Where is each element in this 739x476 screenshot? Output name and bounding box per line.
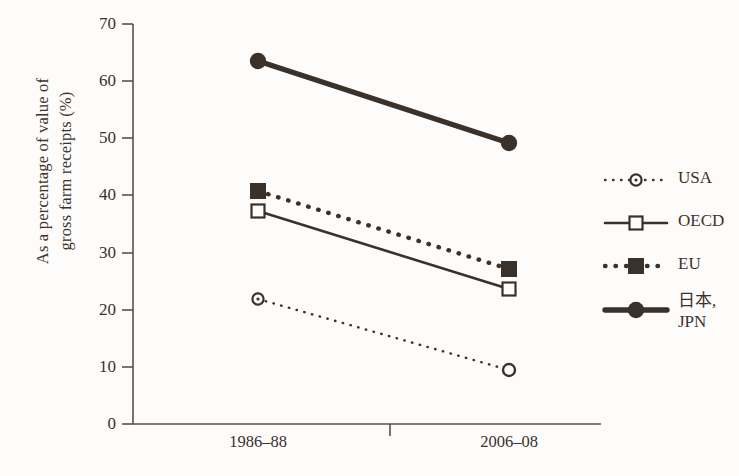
series-jpn-line: [258, 61, 509, 143]
series-usa: [252, 293, 515, 376]
legend-sample-oecd-icon: [602, 206, 670, 240]
legend-item-eu[interactable]: EU: [602, 249, 739, 283]
legend-label-jpn-line-2: JPN: [678, 311, 716, 332]
series-oecd-point-2006-08: [503, 283, 516, 296]
x-tick-label-1986-88: 1986–88: [229, 432, 287, 452]
series-eu: [250, 183, 517, 277]
series-jpn: [250, 53, 517, 151]
legend-sample-jpn-icon: [602, 293, 670, 327]
legend-item-usa[interactable]: USA: [602, 163, 739, 197]
series-usa-line: [258, 299, 509, 370]
y-axis-ticks: [122, 24, 133, 424]
legend-label-jpn-line-1: 日本,: [678, 290, 716, 311]
legend-item-jpn[interactable]: 日本, JPN: [602, 293, 739, 327]
series-eu-line: [258, 191, 509, 269]
series-jpn-point-1986-88: [250, 53, 266, 69]
series-eu-point-1986-88: [250, 183, 266, 199]
series-oecd: [252, 205, 516, 296]
legend-item-oecd[interactable]: OECD: [602, 206, 739, 240]
x-tick-label-2006-08: 2006–08: [480, 432, 538, 452]
series-eu-point-2006-08: [501, 261, 517, 277]
series-usa-point-2006-08: [503, 364, 515, 376]
series-usa-point-1986-88-dot: [256, 297, 259, 300]
series-jpn-point-2006-08: [501, 135, 517, 151]
legend-sample-usa-icon: [602, 163, 670, 197]
legend-label-usa: USA: [678, 167, 712, 188]
legend-label-jpn: 日本, JPN: [678, 290, 716, 332]
chart-figure: As a percentage of value of gross farm r…: [0, 0, 739, 476]
legend-label-eu: EU: [678, 253, 701, 274]
series-oecd-line: [258, 211, 509, 289]
legend-label-oecd: OECD: [678, 210, 724, 231]
legend-sample-eu-icon: [602, 249, 670, 283]
series-oecd-point-1986-88: [252, 205, 265, 218]
